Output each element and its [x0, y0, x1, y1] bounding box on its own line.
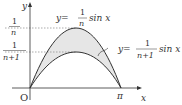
x-axis-arrow-icon — [137, 86, 142, 90]
x-axis-label: x — [141, 93, 146, 103]
tick-1-over-n1-num: 1 — [12, 41, 17, 50]
tick-1-over-n-den: n — [11, 28, 16, 37]
y-axis-arrow-icon — [28, 2, 32, 7]
eq-upper-den: n — [79, 19, 84, 28]
tick-1-over-n1-den: n+1 — [3, 53, 20, 62]
eq-lower-den: n+1 — [137, 51, 154, 60]
eq-upper-num: 1 — [80, 8, 85, 17]
y-axis-label: y — [21, 1, 28, 11]
eq-upper-func: sin x — [89, 13, 110, 23]
eq-lower-func: sin x — [159, 44, 180, 54]
graph: y x O π 1 n 1 n+1 y= 1 n sin x y= 1 n+1 … — [0, 0, 182, 105]
tick-1-over-n-num: 1 — [12, 17, 17, 26]
origin-label: O — [20, 92, 28, 103]
pi-label: π — [116, 91, 124, 101]
eq-lower-num: 1 — [145, 39, 150, 48]
eq-lower-prefix: y= — [117, 44, 131, 54]
eq-upper-prefix: y= — [55, 13, 69, 23]
